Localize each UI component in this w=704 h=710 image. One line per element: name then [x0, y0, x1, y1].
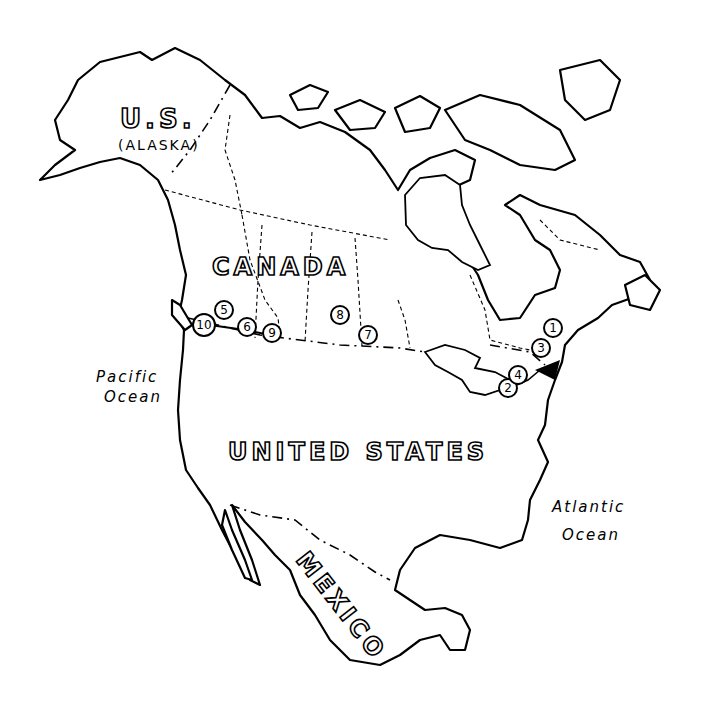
- svg-text:9: 9: [268, 326, 276, 340]
- marker-6[interactable]: 6: [238, 318, 256, 336]
- marker-3[interactable]: 3: [532, 339, 550, 357]
- svg-text:5: 5: [220, 303, 228, 317]
- marker-8[interactable]: 8: [331, 306, 349, 324]
- marker-1[interactable]: 1: [544, 319, 562, 337]
- label-pacific-ocean: Ocean: [104, 388, 162, 406]
- svg-text:4: 4: [514, 368, 522, 382]
- north-america-map: U.S. (ALASKA) CANADA UNITED STATES MEXIC…: [0, 0, 704, 710]
- marker-10[interactable]: 10: [193, 314, 215, 336]
- label-pacific: Pacific: [96, 368, 158, 386]
- label-atlantic: Atlantic: [551, 498, 625, 516]
- label-atlantic-ocean: Ocean: [562, 526, 620, 544]
- label-alaska: (ALASKA): [118, 137, 200, 153]
- svg-text:6: 6: [243, 320, 251, 334]
- arctic-island: [335, 100, 385, 130]
- greenland-edge: [560, 60, 620, 120]
- svg-text:7: 7: [364, 328, 372, 342]
- arctic-island: [290, 85, 328, 110]
- marker-7[interactable]: 7: [359, 326, 377, 344]
- label-canada: CANADA: [212, 253, 349, 281]
- svg-text:2: 2: [504, 381, 512, 395]
- svg-text:10: 10: [196, 318, 211, 332]
- marker-5[interactable]: 5: [215, 301, 233, 319]
- svg-text:1: 1: [549, 321, 557, 335]
- label-united-states: UNITED STATES: [228, 438, 488, 466]
- svg-text:8: 8: [336, 308, 344, 322]
- marker-9[interactable]: 9: [263, 324, 281, 342]
- arctic-island: [395, 96, 440, 132]
- marker-4[interactable]: 4: [509, 366, 527, 384]
- label-us-alaska: U.S.: [120, 104, 196, 134]
- svg-text:3: 3: [537, 341, 545, 355]
